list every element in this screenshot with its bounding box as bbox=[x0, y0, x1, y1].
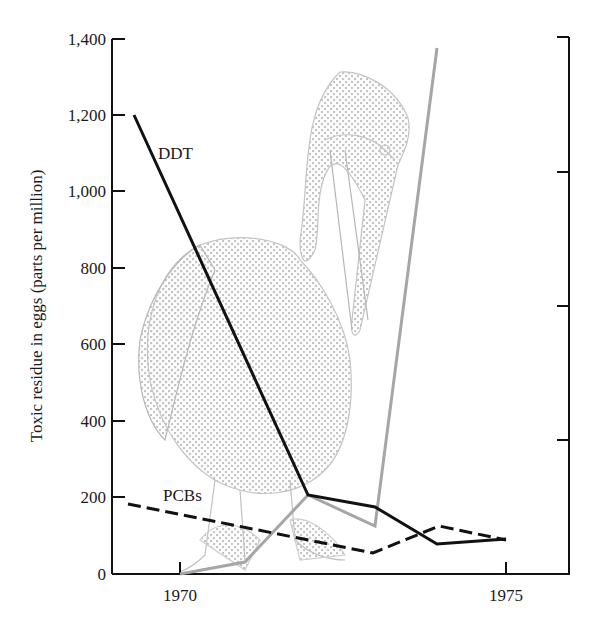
y-tick-200: 200 bbox=[81, 488, 107, 507]
x-tick-labels: 1970 1975 bbox=[163, 586, 523, 605]
y-axis-title: Toxic residue in eggs (parts per million… bbox=[27, 170, 46, 443]
y-tick-400: 400 bbox=[81, 412, 107, 431]
y-tick-0: 0 bbox=[98, 565, 107, 584]
y-tick-1200: 1,200 bbox=[68, 106, 106, 125]
y-tick-1400: 1,400 bbox=[68, 30, 106, 49]
y-tick-800: 800 bbox=[81, 259, 107, 278]
x-tick-1970: 1970 bbox=[163, 586, 197, 605]
y-tick-labels: 1,400 1,200 1,000 800 600 400 200 0 bbox=[68, 30, 106, 584]
y-tick-600: 600 bbox=[81, 335, 107, 354]
y-tick-1000: 1,000 bbox=[68, 182, 106, 201]
series-label-pcbs: PCBs bbox=[163, 486, 202, 505]
y-axis-left bbox=[112, 39, 125, 574]
x-axis bbox=[112, 562, 570, 574]
y-axis-right bbox=[557, 37, 569, 574]
series-label-ddt: DDT bbox=[158, 144, 194, 163]
chart: 1,400 1,200 1,000 800 600 400 200 0 1970… bbox=[0, 0, 594, 626]
x-tick-1975: 1975 bbox=[489, 586, 523, 605]
